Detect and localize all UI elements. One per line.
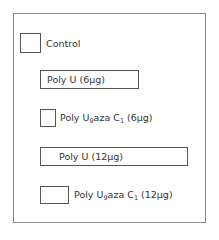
control-swatch	[20, 33, 41, 53]
label-end: (12µg)	[138, 189, 173, 200]
polyu-12-label: Poly U (12µg)	[59, 151, 123, 162]
label-main: Poly U	[60, 112, 89, 123]
polyu-6-label: Poly U (6µg)	[47, 74, 105, 85]
polyu9azac1-12-label: Poly U9aza C1 (12µg)	[74, 189, 173, 200]
polyu9azac1-12-swatch	[40, 186, 69, 204]
label-mid: aza C	[94, 112, 120, 123]
label-end: (6µg)	[124, 112, 153, 123]
polyu9azac1-6-swatch	[40, 109, 56, 127]
label-mid: aza C	[108, 189, 134, 200]
polyu9azac1-6-label: Poly U9aza C1 (6µg)	[60, 112, 153, 123]
label-main: Poly U	[74, 189, 103, 200]
control-label: Control	[46, 38, 80, 49]
